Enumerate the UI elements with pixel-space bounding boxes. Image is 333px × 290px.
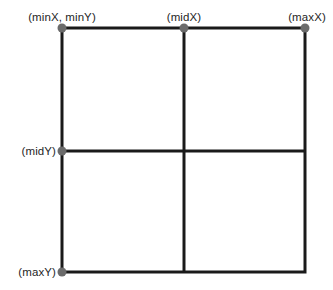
- label-max-y: (maxY): [18, 266, 56, 279]
- node-dot-mid-x: [180, 24, 189, 33]
- label-mid-x: (midX): [167, 11, 201, 24]
- node-dot-max-y: [58, 268, 67, 277]
- node-dot-max-x: [301, 24, 310, 33]
- label-max-x: (maxX): [288, 11, 326, 24]
- node-dot-min-corner: [58, 24, 67, 33]
- quadrant-diagram: (minX, minY) (midX) (maxX) (midY) (maxY): [0, 0, 333, 290]
- label-min-corner: (minX, minY): [28, 11, 96, 24]
- label-mid-y: (midY): [22, 145, 56, 158]
- node-dot-mid-y: [58, 147, 67, 156]
